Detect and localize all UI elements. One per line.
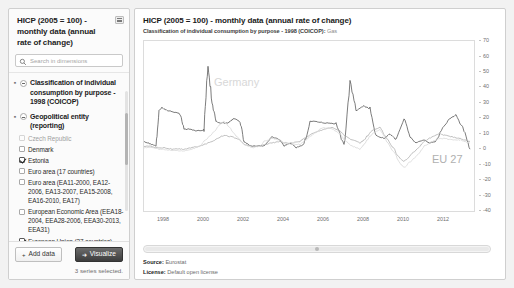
y-tick-label: -40 — [483, 207, 491, 213]
chart-panel: HICP (2005 = 100) - monthly data (annual… — [134, 8, 506, 280]
checkbox-unchecked-icon[interactable] — [19, 168, 25, 174]
checkbox-unchecked-icon[interactable] — [19, 146, 25, 152]
add-data-button[interactable]: + Add data — [15, 247, 62, 262]
list-item[interactable]: European Union (27 countries) — [19, 236, 125, 242]
y-tick-label: -10 — [483, 161, 491, 167]
series-selected-status: 3 series selected. — [15, 267, 123, 274]
chart-subtitle: Classification of individual consumption… — [143, 28, 497, 34]
y-tick-label: 50 — [483, 68, 489, 74]
collapse-toggle-icon[interactable] — [20, 80, 27, 87]
checkbox-unchecked-icon[interactable] — [19, 179, 25, 185]
list-item[interactable]: Czech Republic — [19, 133, 125, 144]
list-item[interactable]: European Economic Area (EEA18-2004, EEA2… — [19, 206, 125, 235]
option-label: Denmark — [28, 145, 53, 154]
x-tick-label: 2010 — [397, 216, 409, 222]
chart-footer: Source: Eurostat License: Default open l… — [143, 258, 218, 277]
source-label: Source: — [143, 259, 164, 265]
geo-option-list[interactable]: Czech Republic Denmark Estonia Euro area… — [9, 133, 129, 242]
search-input[interactable] — [30, 55, 122, 66]
x-axis: 19982000200220042006200820102012 — [143, 213, 475, 225]
series-line-eu-27 — [144, 127, 470, 161]
add-data-label: Add data — [29, 251, 55, 258]
license-label: License: — [143, 269, 166, 275]
chart-header: HICP (2005 = 100) - monthly data (annual… — [135, 9, 505, 37]
option-label: Estonia — [28, 156, 49, 165]
list-item[interactable]: Denmark — [19, 144, 125, 155]
hamburger-icon[interactable] — [115, 16, 124, 24]
dimension-label: Classification of individual consumption… — [30, 78, 123, 106]
search-box[interactable] — [15, 54, 123, 67]
scrollbar-grip[interactable] — [315, 247, 319, 251]
page-title: HICP (2005 = 100) - monthly data (annual… — [143, 16, 497, 25]
x-tick-label: 2006 — [317, 216, 329, 222]
option-label: Euro area (EA11-2000, EA12-2006, EA13-20… — [28, 178, 125, 205]
y-tick-label: -20 — [483, 176, 491, 182]
visualize-label: Visualize — [90, 251, 116, 258]
option-label: European Economic Area (EEA18-2004, EEA2… — [28, 207, 125, 234]
visualize-button[interactable]: ➜ Visualize — [75, 247, 123, 262]
source-line: Source: Eurostat — [143, 258, 218, 268]
x-tick-label: 2012 — [437, 216, 449, 222]
eurostat-data-explorer: HICP (2005 = 100) - monthly data (annual… — [0, 0, 514, 288]
license-line: License: Default open license — [143, 268, 218, 278]
collapse-toggle-icon[interactable] — [20, 113, 27, 120]
sidebar-title: HICP (2005 = 100) - monthly data (annual… — [17, 16, 111, 48]
bullet-icon: ▪ — [13, 78, 17, 88]
plot-area: EstoniaEU 27Germany 706050403020100-10-2… — [143, 40, 497, 218]
option-label: Euro area (17 countries) — [28, 167, 95, 176]
x-tick-label: 2008 — [357, 216, 369, 222]
dimension-geo[interactable]: ▪ Geopolitical entity (reporting) — [9, 109, 129, 133]
x-tick-label: 1998 — [157, 216, 169, 222]
series-line-germany — [144, 121, 470, 167]
sidebar-header: HICP (2005 = 100) - monthly data (annual… — [9, 9, 129, 54]
search-container — [9, 54, 129, 72]
option-label: Czech Republic — [28, 134, 71, 143]
sidebar-footer: + Add data ➜ Visualize 3 series selected… — [9, 241, 129, 279]
chart-subtitle-label: Classification of individual consumption… — [143, 28, 325, 34]
checkbox-checked-icon[interactable] — [19, 238, 25, 241]
chart-subtitle-value: Gas — [327, 28, 337, 34]
y-tick-label: 40 — [483, 83, 489, 89]
search-icon — [19, 58, 27, 66]
y-tick-label: 30 — [483, 99, 489, 105]
y-axis: 706050403020100-10-20-30-40 — [479, 40, 505, 212]
plus-icon: + — [22, 252, 26, 258]
y-tick-label: 60 — [483, 53, 489, 59]
y-tick-label: 70 — [483, 37, 489, 43]
dimension-label: Geopolitical entity (reporting) — [30, 112, 123, 131]
source-value: Eurostat — [165, 259, 186, 265]
y-tick-label: 20 — [483, 114, 489, 120]
x-tick-label: 2004 — [277, 216, 289, 222]
line-chart-svg: EstoniaEU 27Germany — [144, 41, 474, 211]
list-item[interactable]: Euro area (17 countries) — [19, 166, 125, 177]
sidebar-scrollbar-thumb[interactable] — [125, 113, 128, 165]
y-tick-label: 0 — [483, 145, 486, 151]
checkbox-unchecked-icon[interactable] — [19, 135, 25, 141]
x-tick-label: 2002 — [237, 216, 249, 222]
dimension-sidebar: HICP (2005 = 100) - monthly data (annual… — [8, 8, 130, 280]
option-label: European Union (27 countries) — [28, 237, 112, 242]
y-tick-label: 10 — [483, 130, 489, 136]
dimension-coicop[interactable]: ▪ Classification of individual consumpti… — [9, 75, 129, 108]
bullet-icon: ▪ — [13, 112, 17, 122]
checkbox-checked-icon[interactable] — [19, 157, 25, 163]
list-item[interactable]: Estonia — [19, 155, 125, 166]
series-label-eu-27: EU 27 — [432, 153, 463, 165]
time-range-scrollbar[interactable] — [143, 245, 491, 253]
y-tick-label: -30 — [483, 192, 491, 198]
list-item[interactable]: Euro area (EA11-2000, EA12-2006, EA13-20… — [19, 177, 125, 206]
series-label-germany: Germany — [214, 76, 260, 88]
x-tick-label: 2000 — [197, 216, 209, 222]
license-value: Default open license — [167, 269, 218, 275]
dimension-tree[interactable]: ▪ Classification of individual consumpti… — [9, 72, 129, 241]
checkbox-unchecked-icon[interactable] — [19, 209, 25, 215]
plot-box[interactable]: EstoniaEU 27Germany — [143, 40, 475, 212]
arrow-right-icon: ➜ — [82, 252, 87, 258]
